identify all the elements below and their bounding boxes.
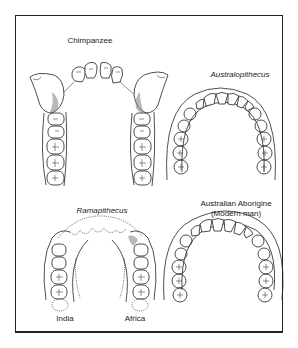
chimpanzee-dental-arch xyxy=(30,62,168,186)
ramapithecus-dental-arch xyxy=(44,216,156,311)
aborigine-dental-arch xyxy=(164,211,283,302)
dental-arches-illustration xyxy=(0,0,298,348)
australopithecus-dental-arch xyxy=(167,88,276,180)
